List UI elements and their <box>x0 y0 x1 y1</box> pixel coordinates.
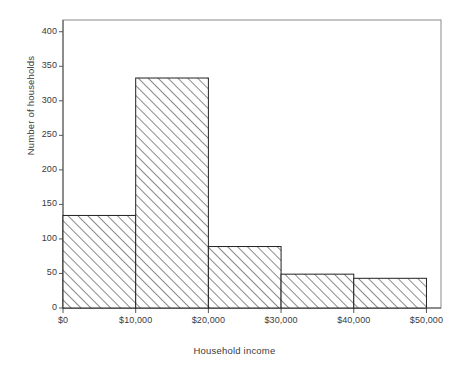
histogram-chart: Number of households Household income 05… <box>0 0 469 370</box>
histogram-bar <box>208 247 281 308</box>
histogram-bar <box>63 215 136 308</box>
histogram-bar <box>281 274 354 308</box>
histogram-bar <box>354 278 427 308</box>
plot-area <box>0 0 469 370</box>
histogram-bar <box>136 78 209 308</box>
